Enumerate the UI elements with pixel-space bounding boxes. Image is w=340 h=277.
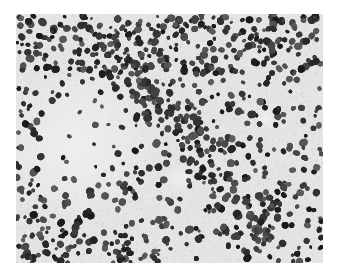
micrograph-canvas (16, 14, 323, 263)
histology-micrograph (16, 14, 323, 263)
